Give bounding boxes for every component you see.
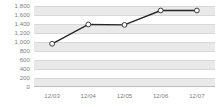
y-tick-label: 1,600 bbox=[14, 12, 30, 19]
data-point-marker[interactable] bbox=[50, 41, 55, 46]
y-tick-label: 800 bbox=[20, 48, 30, 55]
x-tick-label: 12/07 bbox=[189, 92, 205, 100]
data-point-marker[interactable] bbox=[86, 22, 91, 27]
y-tick-label: 200 bbox=[20, 75, 30, 82]
y-tick-label: 1,800 bbox=[14, 3, 30, 10]
y-tick-label: 1,400 bbox=[14, 21, 30, 28]
y-tick-label: 400 bbox=[20, 66, 30, 73]
y-tick-label: 1,200 bbox=[14, 30, 30, 37]
x-axis: 12/0312/0412/0512/0612/07 bbox=[34, 90, 215, 104]
x-tick-label: 12/03 bbox=[44, 92, 60, 100]
x-tick-label: 12/04 bbox=[81, 92, 97, 100]
data-point-marker[interactable] bbox=[158, 8, 163, 13]
series-plot bbox=[34, 6, 215, 87]
data-point-marker[interactable] bbox=[195, 8, 200, 13]
x-tick-label: 12/05 bbox=[117, 92, 133, 100]
data-point-marker[interactable] bbox=[122, 23, 127, 28]
y-tick-label: 0 bbox=[27, 84, 30, 91]
y-tick-label: 600 bbox=[20, 57, 30, 64]
plot-area bbox=[34, 6, 215, 87]
x-tick-label: 12/06 bbox=[153, 92, 169, 100]
y-tick-label: 1,000 bbox=[14, 39, 30, 46]
line-chart: 1,8001,6001,4001,2001,0008006004002000 1… bbox=[0, 0, 221, 107]
y-axis: 1,8001,6001,4001,2001,0008006004002000 bbox=[0, 0, 33, 93]
